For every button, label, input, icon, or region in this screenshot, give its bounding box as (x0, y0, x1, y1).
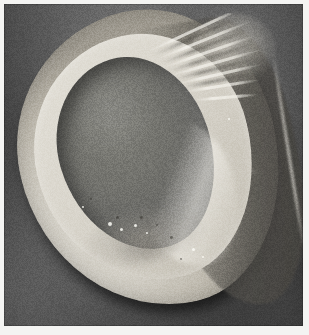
dark-speck (170, 236, 173, 239)
figure-root (0, 0, 309, 335)
shell-specimen (20, 10, 292, 316)
figure-caption (0, 0, 1, 1)
bright-speck (134, 224, 137, 227)
dark-speck (180, 258, 182, 260)
dark-speck (116, 216, 119, 219)
dark-speck (156, 224, 158, 226)
bright-speck (202, 256, 204, 258)
bright-speck (228, 118, 230, 120)
dark-speck (140, 216, 143, 219)
micrograph-plate (4, 4, 303, 326)
bright-speck (120, 228, 123, 231)
bright-speck (108, 222, 112, 226)
bright-speck (82, 206, 84, 208)
dark-speck (90, 198, 92, 200)
bright-speck (192, 248, 195, 251)
dorsal-ridge (193, 93, 259, 102)
bright-speck (146, 232, 148, 234)
